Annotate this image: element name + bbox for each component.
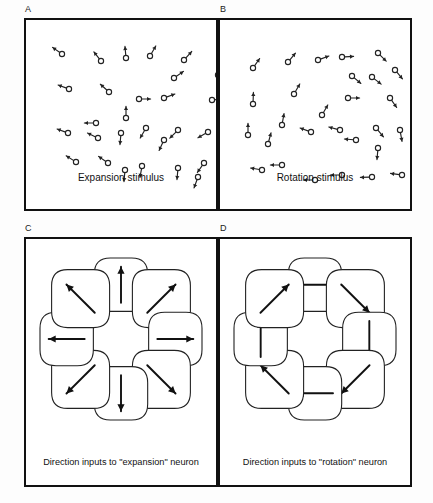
expansion-stimulus-dot: [136, 96, 150, 101]
expansion-stimulus-dot: [58, 84, 72, 91]
expansion-stimulus-dot: [159, 137, 167, 150]
rotation-stimulus-dot: [300, 127, 314, 134]
expansion-direction-ring: [26, 239, 216, 449]
rotation-stimulus-dot: [250, 92, 255, 106]
rotation-stimulus-dot: [397, 127, 403, 141]
expansion-stimulus-dot: [197, 160, 206, 172]
rotation-stimulus-dot: [392, 67, 402, 78]
expansion-stimulus-dot: [147, 46, 155, 59]
panel-d-caption: Direction inputs to "rotation" neuron: [220, 457, 410, 467]
panel-a-caption: Expansion stimulus: [26, 172, 216, 183]
figure-root: A Expansion stimulus B Rotation stimulus…: [0, 0, 433, 503]
rotation-stimulus-dot: [373, 125, 383, 136]
expansion-stimulus-dot: [140, 125, 148, 138]
rotation-stimulus-dot: [270, 162, 284, 167]
expansion-stimulus-dot: [209, 97, 216, 102]
panel-b-caption: Rotation stimulus: [220, 172, 410, 183]
panel-label-c: C: [25, 223, 32, 233]
rotation-stimulus-dot: [285, 53, 295, 64]
rotation-stimulus-dot: [329, 126, 343, 133]
expansion-stimulus-dot: [52, 47, 64, 56]
expansion-stimulus-dot: [94, 52, 104, 64]
expansion-stimulus-dot: [171, 71, 183, 80]
panel-c-expansion-neuron-inputs: Direction inputs to "expansion" neuron: [24, 237, 218, 487]
rotation-stimulus-dot: [349, 73, 360, 83]
panel-label-b: B: [220, 4, 226, 14]
expansion-stimulus-dot: [66, 156, 78, 165]
rotation-stimulus-dot: [319, 105, 327, 118]
expansion-stimulus-dot: [100, 84, 111, 94]
panel-label-d: D: [220, 223, 227, 233]
rotation-stimulus-dot: [315, 55, 329, 62]
rotation-stimulus-dot: [265, 133, 272, 147]
rotation-stimulus-dot: [291, 84, 299, 97]
rotation-stimulus-dot: [387, 95, 396, 107]
panel-c-caption: Direction inputs to "expansion" neuron: [26, 457, 216, 467]
rotation-direction-ring: [220, 239, 410, 449]
rotation-stimulus-dot: [375, 50, 386, 61]
rotation-stimulus-dot: [344, 137, 358, 142]
panel-a-expansion-stimulus: Expansion stimulus: [24, 18, 218, 211]
rotation-stimulus-dot: [375, 145, 380, 159]
rotation-stimulus-dot: [369, 74, 381, 84]
expansion-stimulus-dot: [181, 51, 191, 62]
expansion-stimulus-dot: [57, 128, 71, 135]
expansion-stimulus-dot: [84, 120, 98, 125]
expansion-stimulus-dot: [198, 129, 211, 137]
expansion-stimulus-dot: [123, 106, 128, 120]
expansion-stimulus-dot: [87, 133, 100, 141]
expansion-stimulus-dot: [170, 127, 181, 138]
rotation-stimulus-dot: [250, 58, 259, 70]
rotation-input-lobe: [246, 270, 304, 328]
panel-label-a: A: [25, 4, 31, 14]
rotation-stimulus-dot: [339, 54, 353, 59]
expansion-stimulus-dot: [215, 69, 216, 77]
rotation-stimulus-dot: [245, 123, 250, 137]
expansion-stimulus-dot: [118, 130, 123, 144]
rotation-stimulus-dot: [279, 114, 285, 128]
rotation-stimulus-dot: [345, 95, 359, 100]
expansion-stimulus-dot: [98, 156, 110, 165]
panel-d-rotation-neuron-inputs: Direction inputs to "rotation" neuron: [218, 237, 412, 487]
panel-b-rotation-stimulus: Rotation stimulus: [218, 18, 412, 211]
expansion-stimulus-dot: [123, 46, 128, 60]
expansion-input-lobe: [52, 270, 110, 328]
expansion-stimulus-dot: [161, 93, 175, 100]
